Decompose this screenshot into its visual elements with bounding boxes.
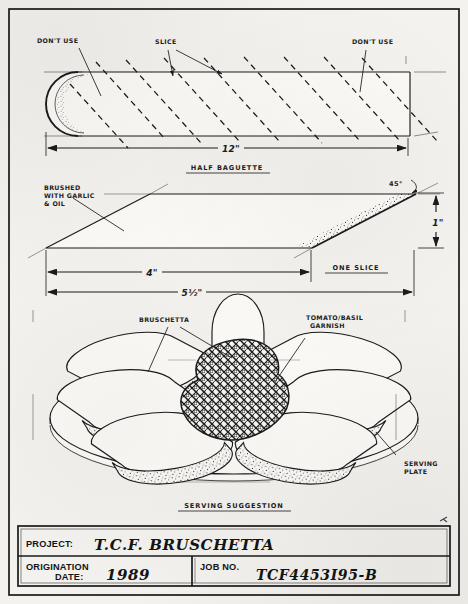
- view-one-slice: BRUSHED WITH GARLIC & OIL 45° 1" ONE SLI…: [28, 180, 444, 298]
- origination-label-line1: ORIGINATION: [26, 562, 89, 572]
- caption-half-baguette-text: HALF BAGUETTE: [191, 164, 263, 172]
- label-plate-line1: SERVING: [404, 460, 438, 467]
- project-value: T.C.F. BRUSCHETTA: [94, 536, 274, 554]
- dimension-face-4in: 4": [46, 250, 311, 296]
- label-garnish-line2: GARNISH: [310, 322, 345, 329]
- title-block: PROJECT: T.C.F. BRUSCHETTA ORIGINATION D…: [18, 526, 450, 586]
- technical-drawing-canvas: DON'T USE SLICE DON'T USE 12": [0, 0, 468, 604]
- dimension-value-4in: 4": [145, 268, 157, 278]
- label-angle-45: 45°: [389, 180, 403, 188]
- label-slice: SLICE: [155, 38, 177, 45]
- label-bruschetta: BRUSCHETTA: [139, 316, 189, 323]
- view-half-baguette: DON'T USE SLICE DON'T USE 12": [37, 37, 446, 173]
- title-block-row-origination: ORIGINATION DATE: 1989: [26, 562, 150, 584]
- caption-serving-suggestion-text: SERVING SUGGESTION: [184, 502, 284, 510]
- label-dont-use-right: DON'T USE: [352, 38, 393, 45]
- dimension-thickness-1in: 1": [418, 193, 444, 248]
- origination-value: 1989: [106, 566, 150, 584]
- title-block-row-job: JOB NO. TCF4453I95-B: [200, 562, 377, 583]
- label-brushed-line2: WITH GARLIC: [44, 192, 95, 199]
- label-brushed-line3: & OIL: [44, 200, 65, 207]
- caption-half-baguette: HALF BAGUETTE: [186, 164, 270, 173]
- annotation-slice: SLICE: [155, 38, 222, 76]
- caption-serving-suggestion: SERVING SUGGESTION: [178, 502, 291, 511]
- drawing-sheet: DON'T USE SLICE DON'T USE 12": [0, 0, 468, 604]
- job-label: JOB NO.: [200, 562, 239, 572]
- label-garnish-line1: TOMATO/BASIL: [306, 314, 363, 321]
- label-plate-line2: PLATE: [404, 468, 427, 475]
- dimension-value-12in: 12": [222, 144, 240, 154]
- label-brushed-line1: BRUSHED: [44, 184, 81, 191]
- label-dont-use-left: DON'T USE: [37, 37, 78, 44]
- caption-one-slice-text: ONE SLICE: [333, 264, 380, 272]
- baguette-outline: [46, 72, 410, 136]
- annotation-angle-45: 45°: [389, 180, 416, 193]
- caption-one-slice: ONE SLICE: [325, 264, 388, 273]
- view-serving-suggestion: BRUSCHETTA TOMATO/BASIL GARNISH SERVING …: [33, 294, 447, 522]
- title-block-row-project: PROJECT: T.C.F. BRUSCHETTA: [26, 536, 274, 554]
- origination-label-line2: DATE:: [55, 572, 83, 582]
- dimension-value-5half-in: 5½": [182, 288, 203, 298]
- dimension-overall-5half-in: 5½": [48, 250, 414, 298]
- project-label: PROJECT:: [26, 539, 73, 549]
- job-value: TCF4453I95-B: [256, 567, 377, 583]
- corner-mark: [440, 517, 447, 522]
- dimension-value-1in: 1": [432, 218, 443, 228]
